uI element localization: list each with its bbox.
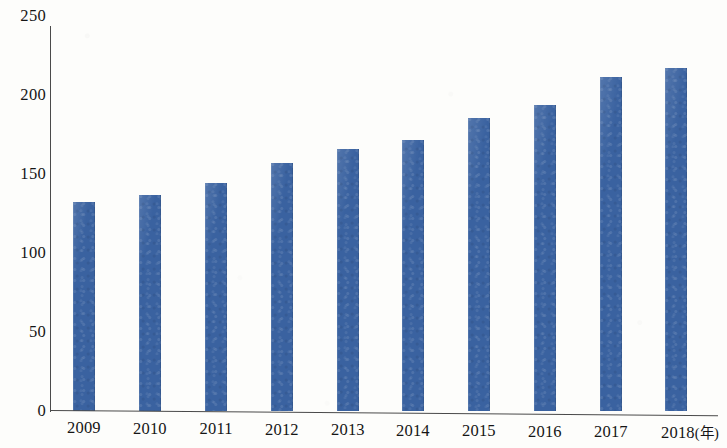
x-tick-label-2017: 2017: [594, 422, 628, 442]
x-tick-label-2013: 2013: [331, 420, 365, 440]
y-axis-line: [50, 26, 51, 412]
plot-area: [51, 26, 718, 411]
bar-2012: [271, 163, 293, 411]
bar-2013: [337, 149, 359, 411]
bar-2009: [73, 202, 95, 411]
y-tick-label-0: 0: [2, 403, 46, 420]
y-tick-label-200: 200: [2, 87, 46, 104]
x-tick-label-2018: 2018(年): [661, 423, 719, 443]
x-tick-label-2012: 2012: [265, 420, 299, 440]
chart-page: 250 200 150 100 50 0 2009 2010 2011 2012…: [0, 0, 727, 448]
x-axis-tick-labels: 2009 2010 2011 2012 2013 2014 2015 2016 …: [51, 418, 727, 448]
bar-2015: [468, 118, 490, 411]
x-tick-label-2011: 2011: [200, 419, 233, 439]
y-tick-label-50: 50: [2, 324, 46, 341]
x-tick-label-2015: 2015: [462, 421, 496, 441]
x-tick-label-2014: 2014: [396, 421, 430, 441]
x-tick-label-2010: 2010: [133, 419, 167, 439]
y-tick-label-150: 150: [2, 166, 46, 183]
bar-2017: [600, 77, 622, 411]
y-axis-tick-labels: 250 200 150 100 50 0: [0, 0, 46, 448]
y-tick-label-250: 250: [2, 8, 46, 25]
bar-2010: [139, 195, 161, 411]
bar-2014: [402, 140, 424, 411]
bar-2011: [205, 183, 227, 411]
x-tick-label-2009: 2009: [67, 418, 101, 438]
bar-2016: [534, 105, 556, 411]
bar-2018: [665, 68, 687, 411]
y-tick-label-100: 100: [2, 245, 46, 262]
x-tick-label-2016: 2016: [528, 422, 562, 442]
